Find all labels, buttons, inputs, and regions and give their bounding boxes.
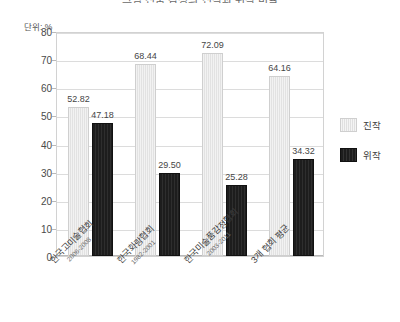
y-axis-tick-label: 60 xyxy=(0,83,52,94)
bar-fake-work xyxy=(159,173,180,256)
bar-chart: 그림 진품 감정의 진작과 위작 비율 단위: % 80706050403020… xyxy=(0,0,400,322)
bar-value-label: 52.82 xyxy=(67,94,90,104)
bar-value-label: 68.44 xyxy=(134,51,157,61)
bar-value-label: 25.28 xyxy=(225,172,248,182)
legend-swatch xyxy=(340,148,357,162)
legend-label: 위작 xyxy=(363,148,381,162)
y-axis-tick-label: 30 xyxy=(0,167,52,178)
bar-value-label: 47.18 xyxy=(91,110,114,120)
chart-legend: 진작위작 xyxy=(340,118,381,178)
legend-label: 진작 xyxy=(363,118,381,132)
legend-swatch xyxy=(340,118,357,132)
legend-item[interactable]: 위작 xyxy=(340,148,381,162)
bar-group: 68.4429.50 xyxy=(135,33,180,256)
bar-group: 64.1634.32 xyxy=(269,33,314,256)
y-axis-tick-label: 80 xyxy=(0,27,52,38)
chart-title: 그림 진품 감정의 진작과 위작 비율 xyxy=(0,0,400,3)
bar-value-label: 64.16 xyxy=(268,63,291,73)
y-axis-tick-label: 40 xyxy=(0,139,52,150)
legend-item[interactable]: 진작 xyxy=(340,118,381,132)
y-axis-tick-label: 10 xyxy=(0,223,52,234)
bar-value-label: 29.50 xyxy=(158,160,181,170)
y-axis-tick-label: 50 xyxy=(0,111,52,122)
y-axis-tick-label: 20 xyxy=(0,195,52,206)
bar-fake-work xyxy=(293,159,314,256)
x-axis-category-labels: 한국고미술협회2006-2008한국화랑협회1982-2001한국미술품감정협회… xyxy=(0,258,400,322)
bar-value-label: 34.32 xyxy=(292,146,315,156)
bar-value-label: 72.09 xyxy=(201,40,224,50)
y-axis-tick-label: 70 xyxy=(0,55,52,66)
